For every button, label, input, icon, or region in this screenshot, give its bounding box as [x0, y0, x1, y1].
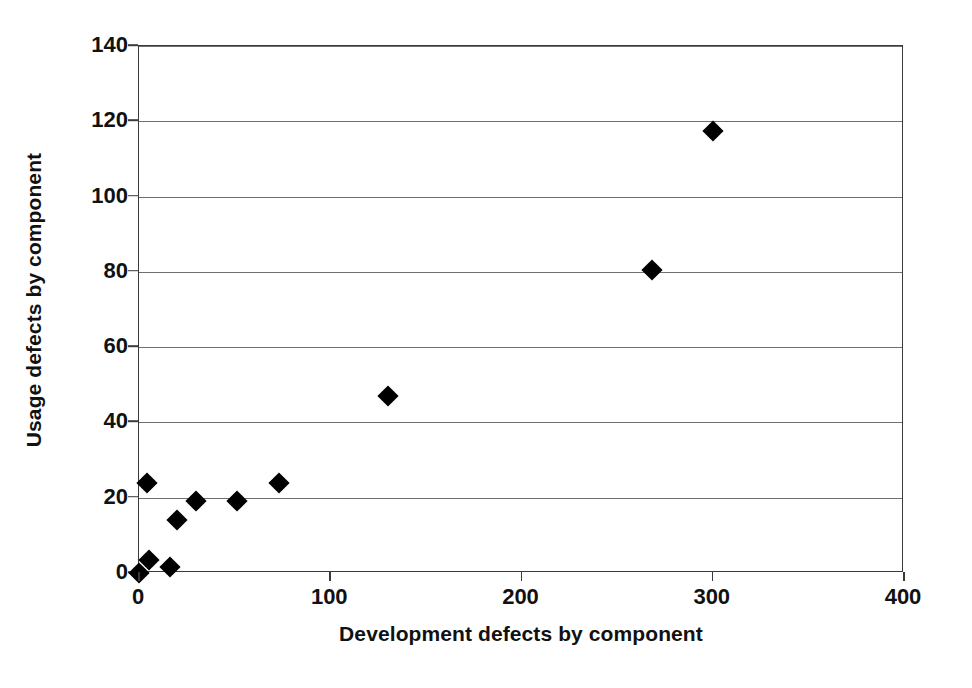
- y-tick-mark: [128, 119, 138, 121]
- gridline: [139, 272, 902, 273]
- y-tick-label: 100: [8, 185, 128, 207]
- data-point-marker: [167, 510, 188, 531]
- scatter-plot-figure: Usage defects by component 0204060801001…: [0, 0, 972, 688]
- y-tick-mark: [128, 195, 138, 197]
- x-tick-label: 0: [78, 586, 198, 608]
- gridline: [139, 197, 902, 198]
- gridline: [139, 347, 902, 348]
- gridline: [139, 422, 902, 423]
- y-tick-label: 140: [8, 34, 128, 56]
- y-tick-label: 120: [8, 109, 128, 131]
- data-point-marker: [136, 472, 157, 493]
- y-tick-label: 40: [8, 410, 128, 432]
- x-tick-mark: [138, 572, 140, 581]
- y-tick-mark: [128, 421, 138, 423]
- y-tick-mark: [128, 270, 138, 272]
- y-tick-mark: [128, 345, 138, 347]
- gridline: [139, 121, 902, 122]
- data-point-marker: [641, 259, 662, 280]
- x-tick-label: 300: [652, 586, 772, 608]
- y-tick-label: 20: [8, 486, 128, 508]
- x-tick-mark: [712, 572, 714, 581]
- x-tick-label: 400: [843, 586, 963, 608]
- x-axis-tick-labels: 0100200300400: [138, 572, 903, 622]
- data-point-marker: [226, 491, 247, 512]
- y-tick-label: 0: [8, 561, 128, 583]
- x-tick-mark: [521, 572, 523, 581]
- x-axis-label: Development defects by component: [138, 622, 904, 646]
- x-tick-label: 200: [461, 586, 581, 608]
- data-point-marker: [702, 120, 723, 141]
- data-point-marker: [268, 472, 289, 493]
- y-tick-mark: [128, 44, 138, 46]
- y-tick-mark: [128, 496, 138, 498]
- y-axis-tick-labels: 020406080100120140: [0, 45, 128, 572]
- y-tick-label: 80: [8, 260, 128, 282]
- plot-area: [138, 45, 903, 572]
- gridline: [139, 46, 902, 47]
- gridline: [139, 498, 902, 499]
- data-point-marker: [186, 491, 207, 512]
- x-tick-mark: [329, 572, 331, 581]
- x-tick-mark: [903, 572, 905, 581]
- y-tick-label: 60: [8, 335, 128, 357]
- x-tick-label: 100: [269, 586, 389, 608]
- data-point-marker: [377, 385, 398, 406]
